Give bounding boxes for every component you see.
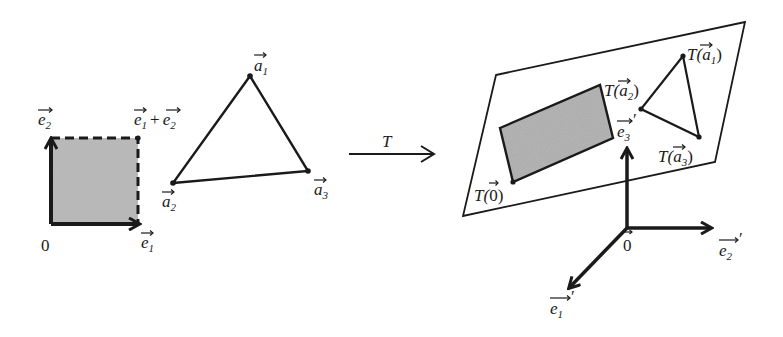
svg-text:e2: e2 [719, 241, 733, 262]
unit-square-texture [51, 138, 138, 224]
ta3-point [696, 134, 701, 139]
svg-text:e1+e2: e1+e2 [134, 110, 176, 131]
e1-prime-label: e1 ′ [550, 287, 575, 320]
svg-text:T(a3): T(a3) [658, 147, 693, 168]
a2-point [170, 180, 176, 186]
axes-origin-label: 0 [623, 230, 632, 255]
svg-text:e1: e1 [141, 233, 154, 254]
svg-text:T(a2): T(a2) [604, 81, 639, 102]
unit-square-group: 0 e1 e2 e1+e2 [38, 108, 180, 256]
a2-label: a2 [162, 190, 177, 214]
transform-label: T [382, 132, 393, 151]
svg-text:a3: a3 [314, 180, 329, 201]
svg-text:T(a1): T(a1) [687, 45, 722, 66]
corner-point [135, 135, 140, 140]
ta1-point [680, 53, 685, 58]
e1-label: e1 [141, 231, 154, 255]
image-plane-group: T(0) T(a1) T(a2) T(a3) [463, 22, 745, 216]
t0-point [510, 179, 515, 184]
ta1-label: T(a1) [687, 43, 722, 67]
e1-prime-axis [570, 228, 627, 287]
transform-arrow-group: T [349, 132, 434, 162]
e2-prime-label: e2 ′ [719, 229, 743, 262]
svg-text:′: ′ [571, 287, 575, 306]
image-triangle [641, 56, 699, 137]
a3-label: a3 [314, 178, 329, 202]
svg-text:T(0): T(0) [474, 186, 503, 205]
t0-label: T(0) [474, 181, 503, 206]
ta2-point [638, 106, 643, 111]
svg-text:′: ′ [633, 110, 637, 129]
svg-text:0: 0 [623, 236, 632, 255]
ta2-label: T(a2) [604, 79, 639, 103]
e1-plus-e2-label: e1+e2 [134, 108, 180, 132]
e2-label: e2 [38, 108, 52, 132]
triangle-group: a1 a2 a3 [162, 53, 329, 214]
image-parallelogram-texture [500, 85, 613, 182]
linear-transformation-diagram: 0 e1 e2 e1+e2 a1 [0, 0, 783, 337]
svg-text:e3: e3 [617, 122, 631, 143]
ta3-label: T(a3) [658, 145, 693, 169]
a3-point [305, 168, 311, 174]
svg-text:a1: a1 [254, 56, 268, 77]
svg-text:e1: e1 [550, 299, 563, 320]
svg-text:′: ′ [739, 229, 743, 248]
e3-prime-label: e3 ′ [617, 110, 637, 143]
svg-text:a2: a2 [162, 192, 177, 213]
a1-point [247, 73, 253, 79]
svg-text:e2: e2 [38, 110, 52, 131]
origin-label: 0 [41, 236, 50, 255]
triangle [173, 76, 308, 183]
a1-label: a1 [254, 53, 268, 78]
